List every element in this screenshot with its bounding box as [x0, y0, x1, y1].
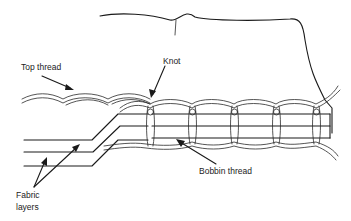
- top-thread: [22, 94, 150, 105]
- knot-arrow: [149, 66, 165, 98]
- bobbin-thread-label: Bobbin thread: [199, 166, 252, 177]
- fabric-layers-label-line2: layers: [16, 202, 39, 213]
- top-thread-label: Top thread: [21, 62, 61, 73]
- top-thread-arrow: [42, 76, 74, 90]
- presser-foot-outline: [100, 14, 332, 133]
- knot-label: Knot: [163, 56, 181, 67]
- fabric-layers-label-line1: Fabric: [16, 190, 40, 201]
- diagram-drawing: [0, 0, 351, 221]
- lockstitch-diagram: Top thread Knot Bobbin thread Fabric lay…: [0, 0, 351, 221]
- stitch-loops: [104, 86, 340, 160]
